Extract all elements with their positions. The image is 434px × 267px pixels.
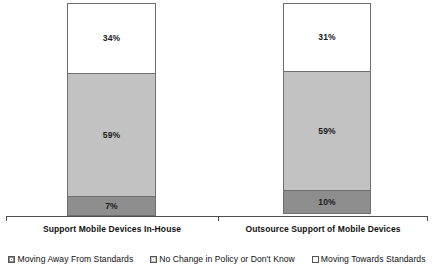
legend-swatch-towards-icon bbox=[312, 256, 319, 263]
x-axis-tick-middle bbox=[218, 216, 219, 221]
x-axis-tick-start bbox=[6, 216, 7, 221]
bar-segment-moving-towards-standards[interactable]: 31% bbox=[283, 3, 371, 72]
bar-segment-label: 7% bbox=[105, 202, 118, 211]
legend-item-moving-away-from-standards[interactable]: Moving Away From Standards bbox=[8, 255, 133, 264]
bar-group-outsource-support[interactable]: 31% 59% 10% bbox=[283, 3, 371, 216]
legend-label: Moving Away From Standards bbox=[17, 255, 133, 264]
plot-area: 34% 59% 7% 31% 59% 10% bbox=[0, 0, 434, 217]
legend-swatch-away-icon bbox=[8, 256, 15, 263]
legend-item-no-change-in-policy[interactable]: No Change in Policy or Don't Know bbox=[150, 255, 295, 264]
bar-segment-label: 59% bbox=[318, 127, 335, 136]
bar-segment-no-change-in-policy[interactable]: 59% bbox=[283, 71, 371, 191]
x-axis-label-outsource-support: Outsource Support of Mobile Devices bbox=[218, 224, 428, 234]
legend-label: Moving Towards Standards bbox=[321, 255, 426, 264]
bar-segment-moving-towards-standards[interactable]: 34% bbox=[67, 3, 156, 74]
bar-segment-moving-away-from-standards[interactable]: 10% bbox=[283, 190, 371, 214]
legend-swatch-nochange-icon bbox=[150, 256, 157, 263]
x-axis-line bbox=[6, 216, 428, 217]
bar-segment-label: 34% bbox=[103, 34, 120, 43]
bar-segment-moving-away-from-standards[interactable]: 7% bbox=[67, 196, 156, 216]
stacked-bar-chart: 34% 59% 7% 31% 59% 10% Support bbox=[0, 0, 434, 267]
x-axis-tick-end bbox=[427, 216, 428, 221]
legend-item-moving-towards-standards[interactable]: Moving Towards Standards bbox=[312, 255, 426, 264]
bar-segment-label: 31% bbox=[318, 33, 335, 42]
bar-segment-label: 10% bbox=[318, 198, 335, 207]
bar-group-support-in-house[interactable]: 34% 59% 7% bbox=[67, 3, 156, 216]
chart-legend: Moving Away From Standards No Change in … bbox=[0, 252, 434, 267]
x-axis-label-support-in-house: Support Mobile Devices In-House bbox=[6, 224, 218, 234]
bar-segment-no-change-in-policy[interactable]: 59% bbox=[67, 73, 156, 197]
legend-label: No Change in Policy or Don't Know bbox=[159, 255, 295, 264]
bar-segment-label: 59% bbox=[103, 131, 120, 140]
